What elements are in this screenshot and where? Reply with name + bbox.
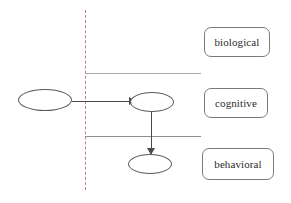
node-bottom[interactable] — [128, 154, 172, 174]
separator-biological-cognitive — [85, 73, 201, 74]
tier-label-biological-text: biological — [215, 36, 260, 48]
node-middle[interactable] — [130, 92, 174, 112]
tier-label-cognitive-text: cognitive — [215, 97, 257, 109]
edge-left-to-middle-line — [72, 101, 135, 102]
tier-label-cognitive[interactable]: cognitive — [204, 88, 268, 118]
tier-label-biological[interactable]: biological — [204, 27, 270, 57]
tier-label-behavioral-text: behavioral — [214, 158, 261, 170]
separator-cognitive-behavioral — [85, 136, 201, 137]
vertical-dashed-divider — [85, 10, 86, 190]
tier-label-behavioral[interactable]: behavioral — [202, 148, 274, 180]
diagram-canvas: biological cognitive behavioral — [0, 0, 291, 203]
node-left[interactable] — [18, 89, 72, 111]
